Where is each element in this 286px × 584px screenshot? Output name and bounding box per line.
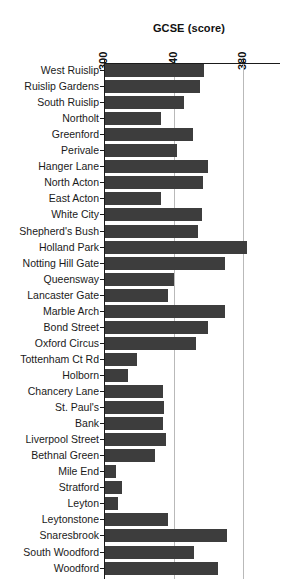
bar [105,401,164,414]
plot-area: West RuislipRuislip GardensSouth Ruislip… [104,63,280,578]
bar [105,529,227,542]
category-label: Oxford Circus [35,336,99,351]
bar [105,417,163,430]
category-label: Notting Hill Gate [23,256,99,271]
category-label: Bond Street [44,320,99,335]
bar-row: Ruislip Gardens [104,79,280,95]
bar-row: Northolt [104,111,280,127]
bar-row: Notting Hill Gate [104,256,280,272]
bar-row: Greenford [104,127,280,143]
bar [105,112,161,125]
bar-row: White City [104,207,280,223]
category-label: West Ruislip [41,63,99,78]
bar-row: Tottenham Ct Rd [104,352,280,368]
category-label: South Woodford [23,545,99,560]
bar [105,353,137,366]
category-label: Leytonstone [42,512,99,527]
bar-row: St. Paul's [104,400,280,416]
category-label: Stratford [59,480,99,495]
bar-row: Queensway [104,272,280,288]
bar [105,192,161,205]
category-label: Greenford [52,127,99,142]
bar [105,160,208,173]
bar [105,96,184,109]
category-label: St. Paul's [55,400,99,415]
category-label: Bank [75,416,99,431]
bar [105,208,202,221]
category-label: Hanger Lane [38,159,99,174]
chart-title: GCSE (score) [104,22,274,34]
bar [105,241,247,254]
bar-row: Bethnal Green [104,448,280,464]
bar [105,257,225,270]
category-label: Liverpool Street [25,432,99,447]
bar-row: Oxford Circus [104,336,280,352]
category-label: Woodford [54,561,99,576]
bar [105,562,218,575]
bar-row: East Acton [104,191,280,207]
bar [105,289,168,302]
bar-row: North Acton [104,175,280,191]
category-label: Lancaster Gate [27,288,99,303]
category-label: Queensway [44,272,99,287]
bar-row: Holland Park [104,240,280,256]
category-label: Bethnal Green [31,448,99,463]
category-label: North Acton [44,175,99,190]
category-label: Marble Arch [43,304,99,319]
category-label: Perivale [61,143,99,158]
bar [105,337,196,350]
bar [105,513,168,526]
category-label: Holborn [62,368,99,383]
bar-row: Woodford [104,561,280,577]
bar [105,481,122,494]
bar-row: West Ruislip [104,63,280,79]
category-label: Leyton [67,496,99,511]
category-label: East Acton [49,191,99,206]
bar [105,546,194,559]
category-label: Holland Park [39,240,99,255]
category-label: White City [51,207,99,222]
bar [105,449,155,462]
bar [105,273,174,286]
bar [105,64,204,77]
bar-row: Stratford [104,480,280,496]
category-label: Tottenham Ct Rd [20,352,99,367]
category-label: Chancery Lane [28,384,99,399]
bar [105,144,177,157]
category-label: Northolt [62,111,99,126]
bar-row: Hanger Lane [104,159,280,175]
category-label: Ruislip Gardens [24,79,99,94]
category-label: Mile End [58,464,99,479]
bar [105,80,200,93]
bar [105,369,128,382]
bar-row: Snaresbrook [104,528,280,544]
bar-row: Marble Arch [104,304,280,320]
bar [105,465,116,478]
gcse-score-bar-chart: GCSE (score) 300340380 West RuislipRuisl… [0,0,286,584]
bar [105,321,208,334]
bar [105,225,198,238]
bar [105,385,163,398]
bar-row: South Woodford [104,545,280,561]
category-label: South Ruislip [37,95,99,110]
bar-row: Mile End [104,464,280,480]
bar-row: Leytonstone [104,512,280,528]
bar [105,305,225,318]
category-label: Shepherd's Bush [19,224,99,239]
bar-row: South Ruislip [104,95,280,111]
category-label: Snaresbrook [39,528,99,543]
bar [105,433,166,446]
bar [105,176,203,189]
bar-row: Bond Street [104,320,280,336]
bar [105,128,193,141]
bar-row: Leyton [104,496,280,512]
bar-row: Shepherd's Bush [104,224,280,240]
bar-row: Bank [104,416,280,432]
bar-row: Chancery Lane [104,384,280,400]
bar-row: Holborn [104,368,280,384]
bar-row: Perivale [104,143,280,159]
bar [105,497,118,510]
bar-row: Lancaster Gate [104,288,280,304]
bar-row: Liverpool Street [104,432,280,448]
